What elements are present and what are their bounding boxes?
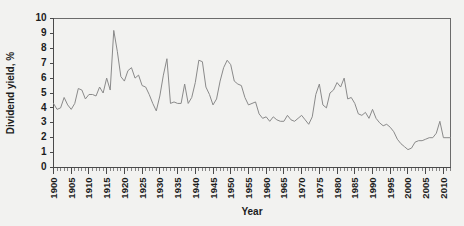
x-tick-label-2005: 2005 xyxy=(420,177,431,199)
x-tick-label-1970: 1970 xyxy=(296,178,307,199)
y-tick-label-1: 1 xyxy=(41,146,47,157)
x-tick-label-1905: 1905 xyxy=(66,177,77,199)
y-tick-label-8: 8 xyxy=(41,42,47,53)
x-tick-label-1975: 1975 xyxy=(314,177,325,199)
x-tick-label-1925: 1925 xyxy=(137,177,148,199)
chart-figure: 012345678910 190019051910191519201925193… xyxy=(0,0,464,226)
x-tick-label-1920: 1920 xyxy=(119,178,130,199)
x-tick-label-1960: 1960 xyxy=(261,178,272,199)
x-axis-title: Year xyxy=(241,206,262,217)
y-tick-label-9: 9 xyxy=(41,27,47,38)
x-tick-label-1990: 1990 xyxy=(367,178,378,199)
x-tick-label-1915: 1915 xyxy=(101,177,112,199)
x-axis-tick-labels: 1900190519101915192019251930193519401945… xyxy=(48,177,449,199)
y-tick-label-2: 2 xyxy=(41,131,47,142)
y-tick-label-0: 0 xyxy=(41,161,47,172)
y-tick-label-3: 3 xyxy=(41,116,47,127)
x-tick-label-1940: 1940 xyxy=(190,178,201,199)
x-tick-label-1965: 1965 xyxy=(278,177,289,199)
y-tick-label-7: 7 xyxy=(41,57,47,68)
x-tick-label-2000: 2000 xyxy=(402,178,413,199)
y-tick-label-4: 4 xyxy=(41,102,47,113)
x-tick-label-1935: 1935 xyxy=(172,177,183,199)
x-tick-label-1995: 1995 xyxy=(385,177,396,199)
x-tick-label-2010: 2010 xyxy=(438,178,449,199)
x-tick-label-1900: 1900 xyxy=(48,178,59,199)
x-tick-label-1950: 1950 xyxy=(225,178,236,199)
y-axis-title: Dividend yield, % xyxy=(5,52,16,134)
dividend-yield-line-chart: 012345678910 190019051910191519201925193… xyxy=(0,0,464,226)
x-tick-label-1985: 1985 xyxy=(349,177,360,199)
x-tick-label-1930: 1930 xyxy=(154,178,165,199)
y-tick-label-6: 6 xyxy=(41,72,47,83)
y-tick-label-5: 5 xyxy=(41,87,47,98)
x-tick-label-1945: 1945 xyxy=(208,177,219,199)
x-tick-label-1955: 1955 xyxy=(243,177,254,199)
x-tick-label-1910: 1910 xyxy=(83,178,94,199)
y-tick-label-10: 10 xyxy=(35,12,47,23)
x-tick-label-1980: 1980 xyxy=(332,178,343,199)
